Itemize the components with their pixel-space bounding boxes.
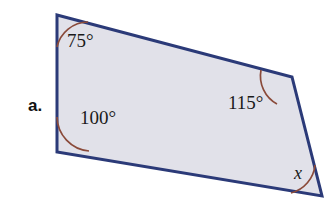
item-label: a.	[28, 96, 42, 116]
angle-label-top-left: 75°	[67, 30, 94, 52]
angle-label-top-right: 115°	[228, 92, 263, 114]
quadrilateral-shape	[57, 15, 322, 196]
angle-label-bottom-right: x	[294, 163, 302, 184]
geometry-figure: a. 75° 115° x 100°	[0, 0, 333, 216]
quadrilateral-diagram	[0, 0, 333, 216]
angle-label-bottom-left: 100°	[80, 107, 116, 129]
